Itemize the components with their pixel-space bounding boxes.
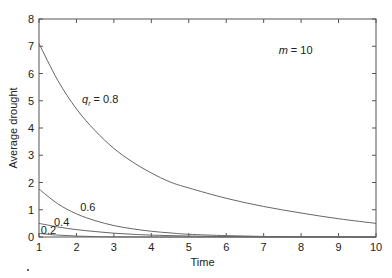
y-tick-label: 5	[28, 95, 34, 107]
x-axis-label: Time	[190, 256, 214, 268]
x-tick-label: 9	[335, 241, 341, 253]
y-tick-label: 3	[28, 149, 34, 161]
annotation-label: 0.4	[54, 216, 69, 228]
annotation-variable: m	[279, 44, 288, 56]
series-line-0-8	[39, 44, 376, 224]
x-tick-label: 8	[298, 241, 304, 253]
x-tick-label: 1	[36, 241, 42, 253]
x-tick-label: 7	[261, 241, 267, 253]
y-tick-label: 4	[28, 122, 34, 134]
y-tick-label: 7	[28, 40, 34, 52]
annotation-text: 0.2	[41, 224, 56, 236]
annotation-label: 0.6	[80, 201, 95, 213]
y-tick-label: 2	[28, 177, 34, 189]
chart: 12345678910 012345678 qr = 0.80.60.40.2m…	[0, 0, 392, 278]
annotation-label: qr = 0.8	[82, 93, 118, 107]
x-tick-label: 6	[223, 241, 229, 253]
annotations: qr = 0.80.60.40.2m = 10	[41, 44, 313, 235]
x-tick-label: 3	[111, 241, 117, 253]
annotation-text: 0.6	[80, 201, 95, 213]
y-tick-label: 6	[28, 68, 34, 80]
y-tick-label: 8	[28, 13, 34, 25]
x-tick-label: 10	[370, 241, 382, 253]
annotation-label: m = 10	[279, 44, 313, 56]
x-tick-label: 2	[73, 241, 79, 253]
y-tick-label: 1	[28, 204, 34, 216]
y-axis-label: Average drought	[7, 87, 19, 168]
stray-mark	[27, 269, 29, 271]
annotation-text: 0.4	[54, 216, 69, 228]
x-tick-label: 5	[186, 241, 192, 253]
annotation-label: 0.2	[41, 224, 56, 236]
x-tick-label: 4	[148, 241, 154, 253]
annotation-text: = 0.8	[91, 93, 119, 105]
y-tick-label: 0	[28, 231, 34, 243]
annotation-text: = 10	[288, 44, 313, 56]
